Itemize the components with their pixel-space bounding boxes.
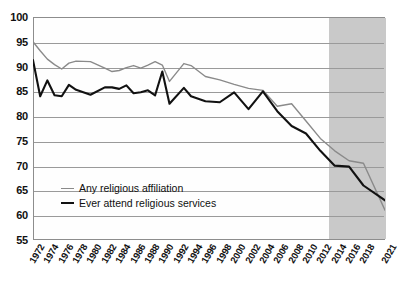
y-axis-tick-label: 65 bbox=[0, 184, 28, 196]
y-axis-tick-label: 85 bbox=[0, 85, 28, 97]
x-axis-tick-label: 2021 bbox=[379, 242, 399, 265]
y-axis-tick-label: 90 bbox=[0, 61, 28, 73]
y-axis-tick-label: 80 bbox=[0, 110, 28, 122]
legend-label-attend: Ever attend religious services bbox=[79, 196, 216, 211]
legend-swatch-icon-attend bbox=[61, 202, 74, 204]
legend-label-affiliation: Any religious affiliation bbox=[79, 181, 183, 196]
y-axis-tick-label: 95 bbox=[0, 36, 28, 48]
y-axis-tick-label: 55 bbox=[0, 234, 28, 246]
legend-item-ever-attend-religious-services: Ever attend religious services bbox=[61, 196, 216, 211]
series-line-ever-attend-religious-services bbox=[33, 60, 385, 200]
y-axis-tick-label: 75 bbox=[0, 135, 28, 147]
y-axis-tick-label: 70 bbox=[0, 160, 28, 172]
chart-container: 100959085807570656055 Any religious affi… bbox=[0, 0, 404, 289]
y-axis-tick-label: 60 bbox=[0, 209, 28, 221]
y-axis-tick-label: 100 bbox=[0, 11, 28, 23]
chart-legend: Any religious affiliation Ever attend re… bbox=[61, 181, 216, 210]
legend-item-any-religious-affiliation: Any religious affiliation bbox=[61, 181, 216, 196]
legend-swatch-icon-affiliation bbox=[61, 188, 74, 189]
x-axis-labels: 1972197419761978198019821984198619881990… bbox=[33, 242, 385, 289]
